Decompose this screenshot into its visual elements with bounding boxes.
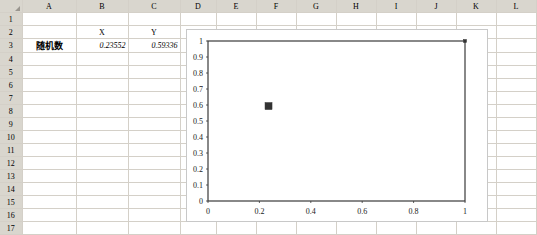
cell-d1[interactable] (180, 13, 216, 26)
cell-l12[interactable] (496, 157, 536, 170)
cell-j1[interactable] (416, 13, 456, 26)
cell-c4[interactable] (128, 53, 180, 66)
column-header-l[interactable]: L (496, 0, 536, 13)
column-header-c[interactable]: C (128, 0, 180, 13)
cell-c16[interactable] (128, 209, 180, 222)
cell-c13[interactable] (128, 170, 180, 183)
cell-l9[interactable] (496, 118, 536, 131)
cell-e17[interactable] (216, 222, 256, 235)
cell-k1[interactable] (456, 13, 496, 26)
cell-l11[interactable] (496, 144, 536, 157)
cell-l6[interactable] (496, 79, 536, 92)
cell-l4[interactable] (496, 53, 536, 66)
column-header-j[interactable]: J (416, 0, 456, 13)
cell-a13[interactable] (22, 170, 76, 183)
cell-b13[interactable] (76, 170, 128, 183)
cell-h1[interactable] (336, 13, 376, 26)
cell-a2[interactable] (22, 26, 76, 39)
cell-b12[interactable] (76, 157, 128, 170)
cell-a6[interactable] (22, 79, 76, 92)
cell-b14[interactable] (76, 183, 128, 196)
column-header-k[interactable]: K (456, 0, 496, 13)
cell-c6[interactable] (128, 79, 180, 92)
cell-b11[interactable] (76, 144, 128, 157)
cell-b7[interactable] (76, 92, 128, 105)
row-header-15[interactable]: 15 (0, 196, 22, 209)
cell-c8[interactable] (128, 105, 180, 118)
cell-a5[interactable] (22, 66, 76, 79)
cell-g17[interactable] (296, 222, 336, 235)
cell-a16[interactable] (22, 209, 76, 222)
row-header-4[interactable]: 4 (0, 53, 22, 66)
column-header-a[interactable]: A (22, 0, 76, 13)
cell-i17[interactable] (376, 222, 416, 235)
row-header-3[interactable]: 3 (0, 39, 22, 53)
cell-c3[interactable]: 0.59336 (128, 39, 180, 53)
cell-k17[interactable] (456, 222, 496, 235)
cell-l5[interactable] (496, 66, 536, 79)
cell-c12[interactable] (128, 157, 180, 170)
row-header-6[interactable]: 6 (0, 79, 22, 92)
column-header-i[interactable]: I (376, 0, 416, 13)
column-header-e[interactable]: E (216, 0, 256, 13)
cell-b17[interactable] (76, 222, 128, 235)
row-header-9[interactable]: 9 (0, 118, 22, 131)
cell-d17[interactable] (180, 222, 216, 235)
row-header-7[interactable]: 7 (0, 92, 22, 105)
cell-j17[interactable] (416, 222, 456, 235)
cell-l14[interactable] (496, 183, 536, 196)
cell-e1[interactable] (216, 13, 256, 26)
cell-c2[interactable]: Y (128, 26, 180, 39)
cell-c5[interactable] (128, 66, 180, 79)
cell-c17[interactable] (128, 222, 180, 235)
row-header-16[interactable]: 16 (0, 209, 22, 222)
cell-l15[interactable] (496, 196, 536, 209)
cell-c11[interactable] (128, 144, 180, 157)
cell-b8[interactable] (76, 105, 128, 118)
cell-a12[interactable] (22, 157, 76, 170)
cell-c14[interactable] (128, 183, 180, 196)
cell-b1[interactable] (76, 13, 128, 26)
row-header-11[interactable]: 11 (0, 144, 22, 157)
column-header-g[interactable]: G (296, 0, 336, 13)
cell-a14[interactable] (22, 183, 76, 196)
cell-l2[interactable] (496, 26, 536, 39)
row-header-12[interactable]: 12 (0, 157, 22, 170)
cell-a10[interactable] (22, 131, 76, 144)
cell-a1[interactable] (22, 13, 76, 26)
cell-l17[interactable] (496, 222, 536, 235)
cell-c7[interactable] (128, 92, 180, 105)
cell-b9[interactable] (76, 118, 128, 131)
cell-a15[interactable] (22, 196, 76, 209)
cell-a4[interactable] (22, 53, 76, 66)
cell-c1[interactable] (128, 13, 180, 26)
column-header-b[interactable]: B (76, 0, 128, 13)
cell-b4[interactable] (76, 53, 128, 66)
cell-b3[interactable]: 0.23552 (76, 39, 128, 53)
cell-b6[interactable] (76, 79, 128, 92)
cell-a17[interactable] (22, 222, 76, 235)
row-header-10[interactable]: 10 (0, 131, 22, 144)
cell-l1[interactable] (496, 13, 536, 26)
cell-c15[interactable] (128, 196, 180, 209)
cell-b15[interactable] (76, 196, 128, 209)
cell-c9[interactable] (128, 118, 180, 131)
cell-b2[interactable]: X (76, 26, 128, 39)
column-header-f[interactable]: F (256, 0, 296, 13)
cell-l16[interactable] (496, 209, 536, 222)
cell-a8[interactable] (22, 105, 76, 118)
row-header-2[interactable]: 2 (0, 26, 22, 39)
cell-b5[interactable] (76, 66, 128, 79)
select-all-corner[interactable] (0, 0, 22, 13)
cell-l7[interactable] (496, 92, 536, 105)
cell-c10[interactable] (128, 131, 180, 144)
cell-i1[interactable] (376, 13, 416, 26)
cell-f17[interactable] (256, 222, 296, 235)
cell-l3[interactable] (496, 39, 536, 53)
cell-a9[interactable] (22, 118, 76, 131)
cell-a7[interactable] (22, 92, 76, 105)
row-header-1[interactable]: 1 (0, 13, 22, 26)
cell-l13[interactable] (496, 170, 536, 183)
embedded-scatter-chart[interactable]: 00.10.20.30.40.50.60.70.80.91 00.20.40.6… (186, 29, 488, 222)
column-header-h[interactable]: H (336, 0, 376, 13)
